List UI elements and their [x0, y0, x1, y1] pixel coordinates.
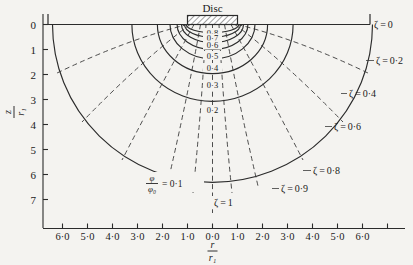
x-tick-label: 1·0	[181, 231, 195, 242]
x-tick-label: 3·0	[281, 231, 295, 242]
x-axis-title-denominator: r₁	[209, 252, 216, 263]
svg-text:0·4: 0·4	[207, 63, 219, 73]
x-axis-title-numerator: r	[211, 239, 215, 250]
x-tick-label: 5·0	[81, 231, 95, 242]
zeta-label-0-8: ζ = 0·8	[313, 165, 340, 177]
zeta-label-1-group: ζ = 1	[206, 196, 244, 209]
y-tick-label: 1	[31, 44, 37, 56]
x-tick-label: 4·0	[306, 231, 320, 242]
disc-rect	[188, 16, 238, 25]
y-tick-label: 0	[31, 19, 37, 31]
phi-value: = 0·1	[162, 179, 183, 189]
y-tick-label: 3	[31, 94, 37, 106]
svg-text:0·6: 0·6	[207, 40, 218, 50]
x-tick-label: 5·0	[331, 231, 345, 242]
y-tick-label: 5	[31, 144, 37, 156]
y-tick-label: 7	[31, 194, 37, 206]
x-tick-label: 4·0	[106, 231, 120, 242]
zeta-label-0-2: ζ = 0·2	[376, 55, 403, 67]
y-tick-label: 6	[31, 169, 37, 181]
phi-denominator: φ₀	[148, 184, 156, 194]
x-tick-label: 6·0	[356, 231, 370, 242]
contour-label-0-4: 0·4	[203, 63, 222, 73]
y-tick-label: 4	[31, 119, 37, 131]
x-tick-label: 3·0	[131, 231, 145, 242]
zeta-label-0-6: ζ = 0·6	[334, 121, 361, 133]
contour-label-0-5: 0·5	[203, 51, 222, 61]
zeta-label-1: ζ = 1	[214, 197, 233, 209]
contour-label-0-3: 0·3	[203, 80, 222, 90]
x-tick-label: 6·0	[56, 231, 70, 242]
outer-contour-label: φ φ₀ = 0·1	[146, 172, 204, 194]
zeta-label-0: ζ = 0	[374, 19, 393, 31]
svg-text:0·5: 0·5	[207, 51, 218, 61]
contour-plot-svg: 0 1 2 3 4 5 6 7 z r₁	[0, 0, 413, 265]
disc-label: Disc	[202, 2, 222, 14]
phi-numerator: φ	[150, 173, 155, 183]
zeta-label-0-4: ζ = 0·4	[349, 88, 376, 100]
y-axis-title-numerator: z	[2, 110, 13, 115]
zeta-label-0-9: ζ = 0·9	[281, 183, 308, 195]
svg-text:0·2: 0·2	[207, 105, 218, 115]
y-axis-title-denominator: r₁	[15, 108, 26, 115]
figure-container: 0 1 2 3 4 5 6 7 z r₁	[0, 0, 413, 265]
y-tick-label: 2	[31, 69, 37, 81]
x-tick-label: 2·0	[256, 231, 270, 242]
contour-label-0-6: 0·6	[203, 40, 222, 50]
contour-label-0-2: 0·2	[203, 105, 222, 115]
svg-text:0·3: 0·3	[207, 80, 218, 90]
x-tick-label: 2·0	[156, 231, 170, 242]
x-tick-label: 1·0	[231, 231, 245, 242]
